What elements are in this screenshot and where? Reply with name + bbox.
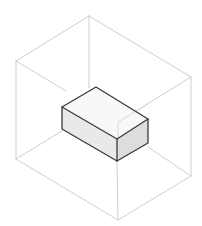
cube-edge-bottom-right (118, 176, 191, 220)
inner-box (62, 87, 148, 161)
cube-edge-right-bottom-inner (148, 147, 191, 176)
cube-edge-bottom-left (16, 159, 118, 220)
cube-edge-top-right (89, 16, 191, 77)
isometric-cube-diagram (0, 0, 202, 226)
cube-edge-top-left (16, 16, 89, 61)
cube-edge-left-top-inner (16, 61, 66, 91)
cube-edge-front-vertical (117, 161, 118, 220)
cube-edge-left-bottom-inner (16, 131, 62, 159)
